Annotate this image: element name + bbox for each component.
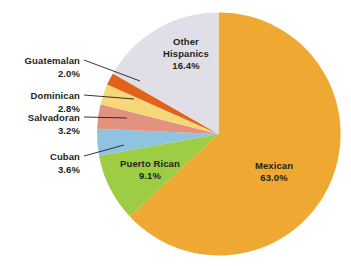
callout-label-salvadoran-name: Salvadoran [28,112,80,123]
callout-label-salvadoran-pct: 3.2% [58,125,81,136]
slice-label-mexican-pct: 63.0% [260,172,288,183]
slice-label-other-hispanics-line2: Hispanics [163,48,209,59]
callout-label-guatemalan-pct: 2.0% [58,68,81,79]
callout-label-dominican-name: Dominican [31,90,81,101]
pie-slices [97,12,341,255]
callout-labels: Guatemalan 2.0% Dominican 2.8% Salvadora… [25,55,81,175]
slice-label-other-hispanics-pct: 16.4% [172,60,200,71]
callout-label-cuban-name: Cuban [50,151,80,162]
slice-label-other-hispanics-line1: Other [173,36,199,47]
callout-label-cuban-pct: 3.6% [58,164,81,175]
pie-chart-svg: Mexican 63.0% Puerto Rican 9.1% Other Hi… [0,0,351,269]
slice-label-puerto-rican-pct: 9.1% [139,170,162,181]
slice-label-puerto-rican-name: Puerto Rican [120,158,180,169]
callout-label-guatemalan-name: Guatemalan [25,55,80,66]
pie-chart-figure: Mexican 63.0% Puerto Rican 9.1% Other Hi… [0,0,351,269]
slice-label-mexican-name: Mexican [255,160,293,171]
